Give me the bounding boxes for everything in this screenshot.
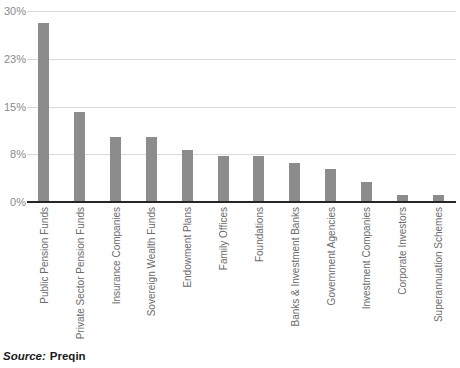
x-axis-category-label: Private Sector Pension Funds <box>74 207 87 339</box>
gridline-8% <box>27 154 456 155</box>
x-axis-category-label: Superannuation Schemes <box>432 207 445 322</box>
bar-10 <box>361 182 372 201</box>
y-axis-tick-label: 0% <box>0 195 26 209</box>
x-axis-category-label: Government Agencies <box>325 207 338 305</box>
x-axis-category-label: Family Offices <box>217 207 230 270</box>
x-axis-category-label: Corporate Investors <box>396 207 409 295</box>
y-axis-tick-label: 8% <box>0 147 26 161</box>
bar-6 <box>218 156 229 201</box>
y-axis-tick-label: 23% <box>0 52 26 66</box>
bar-2 <box>74 112 85 201</box>
source-name: Preqin <box>50 350 86 362</box>
gridline-15% <box>27 107 456 108</box>
x-axis-category-label: Foundations <box>253 207 266 262</box>
x-axis-category-label: Public Pension Funds <box>38 207 51 304</box>
bar-12 <box>433 195 444 201</box>
source-label: Source: <box>3 350 46 362</box>
bar-5 <box>182 150 193 201</box>
bar-4 <box>146 137 157 201</box>
bar-3 <box>110 137 121 201</box>
x-axis-category-label: Sovereign Wealth Funds <box>145 207 158 316</box>
y-axis-tick-label: 30% <box>0 4 26 18</box>
bar-chart-figure: 0%8%15%23%30%Public Pension FundsPrivate… <box>0 0 460 368</box>
bar-1 <box>38 23 49 201</box>
bar-11 <box>397 195 408 201</box>
bar-8 <box>289 163 300 201</box>
gridline-30% <box>27 11 456 12</box>
x-axis-category-label: Endowment Plans <box>181 207 194 288</box>
x-axis-category-label: Insurance Companies <box>110 207 123 304</box>
gridline-23% <box>27 59 456 60</box>
x-axis-category-label: Banks & Investment Banks <box>289 207 302 327</box>
x-axis-line <box>27 201 456 204</box>
bar-7 <box>253 156 264 201</box>
source-note: Source:Preqin <box>3 350 86 362</box>
x-axis-category-label: Investment Companies <box>360 207 373 309</box>
bar-9 <box>325 169 336 201</box>
y-axis-tick-label: 15% <box>0 100 26 114</box>
